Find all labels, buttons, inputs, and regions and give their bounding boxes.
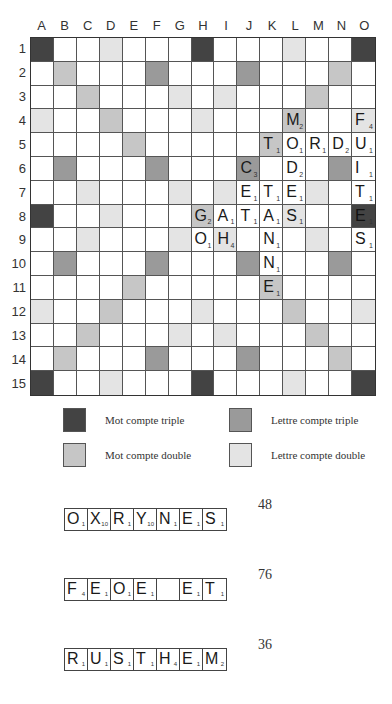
board-cell-a7[interactable] [31, 181, 54, 205]
board-cell-b5[interactable] [54, 133, 77, 157]
board-cell-n10[interactable] [329, 252, 352, 276]
word-tile[interactable]: N1 [157, 509, 180, 530]
word-tile[interactable]: T1 [134, 649, 157, 670]
board-cell-f11[interactable] [146, 276, 169, 300]
board-cell-g2[interactable] [169, 62, 192, 86]
board-cell-m4[interactable] [306, 109, 329, 133]
board-cell-j14[interactable] [237, 347, 260, 371]
board-cell-n13[interactable] [329, 324, 352, 348]
board-cell-f4[interactable] [146, 109, 169, 133]
board-cell-m6[interactable] [306, 157, 329, 181]
board-cell-n1[interactable] [329, 38, 352, 62]
board-cell-c10[interactable] [77, 252, 100, 276]
board-cell-a9[interactable] [31, 228, 54, 252]
board-cell-o11[interactable] [352, 276, 375, 300]
board-cell-m15[interactable] [306, 371, 329, 395]
board-cell-k1[interactable] [260, 38, 283, 62]
board-cell-n12[interactable] [329, 300, 352, 324]
board-cell-f5[interactable] [146, 133, 169, 157]
board-cell-g10[interactable] [169, 252, 192, 276]
board-cell-f3[interactable] [146, 86, 169, 110]
word-tile[interactable]: O1 [111, 579, 134, 600]
board-cell-n3[interactable] [329, 86, 352, 110]
word-tile[interactable]: E1 [88, 579, 111, 600]
board-cell-g7[interactable] [169, 181, 192, 205]
board-cell-i8[interactable]: A1 [214, 205, 237, 229]
board-cell-o14[interactable] [352, 347, 375, 371]
word-tile[interactable]: E1 [180, 509, 203, 530]
board-cell-f2[interactable] [146, 62, 169, 86]
board-cell-c1[interactable] [77, 38, 100, 62]
board-cell-i11[interactable] [214, 276, 237, 300]
board-cell-c9[interactable] [77, 228, 100, 252]
board-cell-h14[interactable] [192, 347, 215, 371]
word-tile[interactable]: E1 [180, 649, 203, 670]
board-cell-k9[interactable]: N1 [260, 228, 283, 252]
board-cell-b1[interactable] [54, 38, 77, 62]
word-tile[interactable]: U1 [88, 649, 111, 670]
board-cell-a4[interactable] [31, 109, 54, 133]
board-cell-e8[interactable] [123, 205, 146, 229]
board-cell-a6[interactable] [31, 157, 54, 181]
board-cell-h3[interactable] [192, 86, 215, 110]
board-cell-n15[interactable] [329, 371, 352, 395]
board-cell-i15[interactable] [214, 371, 237, 395]
board-cell-k13[interactable] [260, 324, 283, 348]
board-cell-m2[interactable] [306, 62, 329, 86]
board-cell-a11[interactable] [31, 276, 54, 300]
word-tile[interactable]: E1 [180, 579, 203, 600]
board-cell-l5[interactable]: O1 [283, 133, 306, 157]
board-cell-i5[interactable] [214, 133, 237, 157]
board-cell-l10[interactable] [283, 252, 306, 276]
board-cell-d9[interactable] [100, 228, 123, 252]
board-cell-b3[interactable] [54, 86, 77, 110]
word-tile[interactable]: M2 [203, 649, 226, 670]
board-cell-c5[interactable] [77, 133, 100, 157]
board-cell-d11[interactable] [100, 276, 123, 300]
board-cell-e1[interactable] [123, 38, 146, 62]
board-cell-c3[interactable] [77, 86, 100, 110]
board-cell-h11[interactable] [192, 276, 215, 300]
board-cell-f13[interactable] [146, 324, 169, 348]
board-cell-l12[interactable] [283, 300, 306, 324]
board-cell-d4[interactable] [100, 109, 123, 133]
board-cell-b2[interactable] [54, 62, 77, 86]
board-cell-k8[interactable]: A1 [260, 205, 283, 229]
word-tile[interactable]: H4 [157, 649, 180, 670]
board-cell-k11[interactable]: E1 [260, 276, 283, 300]
board-cell-d10[interactable] [100, 252, 123, 276]
board-cell-b6[interactable] [54, 157, 77, 181]
board-cell-l3[interactable] [283, 86, 306, 110]
board-cell-o5[interactable]: U1 [352, 133, 375, 157]
board-cell-h5[interactable] [192, 133, 215, 157]
board-cell-b7[interactable] [54, 181, 77, 205]
board-cell-a8[interactable] [31, 205, 54, 229]
board-cell-g12[interactable] [169, 300, 192, 324]
board-cell-i10[interactable] [214, 252, 237, 276]
board-cell-l4[interactable]: M2 [283, 109, 306, 133]
board-cell-l11[interactable] [283, 276, 306, 300]
board-cell-k7[interactable]: T1 [260, 181, 283, 205]
board-cell-o1[interactable] [352, 38, 375, 62]
board-cell-b8[interactable] [54, 205, 77, 229]
board-cell-b15[interactable] [54, 371, 77, 395]
board-cell-h10[interactable] [192, 252, 215, 276]
board-cell-j10[interactable] [237, 252, 260, 276]
board-cell-k5[interactable]: T1 [260, 133, 283, 157]
board-cell-h8[interactable]: G2 [192, 205, 215, 229]
board-cell-c8[interactable] [77, 205, 100, 229]
board-cell-m13[interactable] [306, 324, 329, 348]
board-cell-b11[interactable] [54, 276, 77, 300]
board-cell-f10[interactable] [146, 252, 169, 276]
board-cell-d12[interactable] [100, 300, 123, 324]
board-cell-l1[interactable] [283, 38, 306, 62]
board-cell-o12[interactable] [352, 300, 375, 324]
board-cell-c6[interactable] [77, 157, 100, 181]
board-cell-n14[interactable] [329, 347, 352, 371]
board-cell-d15[interactable] [100, 371, 123, 395]
board-cell-a5[interactable] [31, 133, 54, 157]
board-cell-d13[interactable] [100, 324, 123, 348]
board-cell-i12[interactable] [214, 300, 237, 324]
board-cell-a14[interactable] [31, 347, 54, 371]
word-tile[interactable]: X10 [88, 509, 111, 530]
